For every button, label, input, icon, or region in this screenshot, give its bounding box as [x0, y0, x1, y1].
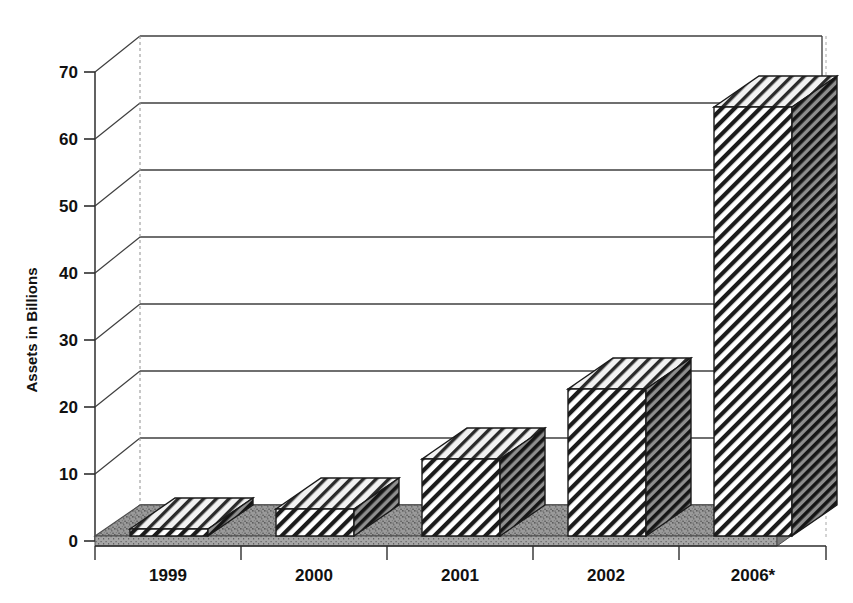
y-tick-label: 40 — [59, 264, 78, 283]
x-tick-label-2000: 2000 — [295, 566, 333, 585]
y-tick-label: 50 — [59, 197, 78, 216]
y-tick-label: 70 — [59, 63, 78, 82]
bar-chart-figure: 70 60 50 40 30 20 10 0 Assets in Billion… — [0, 0, 853, 603]
y-tick-label: 0 — [69, 532, 78, 551]
x-axis-ticks — [95, 546, 826, 560]
y-tick-label: 60 — [59, 130, 78, 149]
y-tick-label: 30 — [59, 331, 78, 350]
x-tick-label-2001: 2001 — [441, 566, 479, 585]
x-tick-label-2002: 2002 — [587, 566, 625, 585]
y-tick-label: 10 — [59, 465, 78, 484]
axis-depth-connectors — [95, 36, 140, 541]
bar-2006[interactable] — [714, 76, 837, 536]
x-tick-label-2006: 2006* — [731, 566, 776, 585]
bar-2002[interactable] — [568, 358, 691, 536]
x-axis-category-labels: 1999 2000 2001 2002 2006* — [149, 566, 776, 585]
x-tick-label-1999: 1999 — [149, 566, 187, 585]
y-axis-ticks — [84, 72, 95, 541]
y-axis-tick-labels: 70 60 50 40 30 20 10 0 — [59, 63, 78, 551]
y-axis-title-text: Assets in Billions — [23, 267, 40, 392]
chart-canvas: 70 60 50 40 30 20 10 0 Assets in Billion… — [0, 0, 853, 603]
y-axis-title: Assets in Billions — [23, 267, 40, 392]
y-tick-label: 20 — [59, 398, 78, 417]
